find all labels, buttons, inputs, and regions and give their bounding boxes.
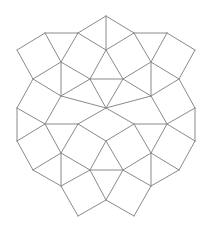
tiling-edge (151, 170, 179, 186)
tiling-edge (106, 16, 134, 33)
tiling-edge (17, 108, 45, 124)
tiling-edges (17, 16, 195, 216)
tiling-edge (45, 96, 61, 124)
tiling-edge (106, 141, 123, 170)
tiling-edge (61, 62, 90, 79)
tiling-edge (90, 141, 106, 170)
tiling-edge (134, 33, 151, 62)
tiling-edge (17, 50, 33, 79)
tiling-edge (151, 33, 167, 62)
tiling-edge (33, 79, 61, 96)
tiling-edge (61, 170, 90, 186)
tiling-edge (45, 124, 61, 153)
tiling-edge (17, 79, 33, 108)
tiling-edge (45, 33, 61, 62)
tiling-edge (78, 200, 106, 216)
tiling-edge (33, 62, 61, 79)
tiling-edge (106, 50, 123, 79)
tiling-edge (151, 62, 179, 79)
tiling-edge (61, 96, 106, 108)
tiling-edge (167, 124, 195, 141)
tiling-edge (61, 124, 78, 153)
tiling-edge (61, 153, 90, 170)
tiling-edge (17, 141, 33, 170)
tiling-edge (151, 96, 167, 124)
tiling-edge (134, 186, 151, 216)
tiling-edge (61, 186, 78, 216)
tiling-edge (17, 124, 45, 141)
tiling-edge (90, 170, 106, 200)
tiling-edge (151, 153, 179, 170)
tiling-edge (90, 79, 106, 108)
tiling-edge (106, 170, 123, 200)
tiling-edge (33, 170, 61, 186)
square-triangle-tiling-diagram (0, 0, 209, 226)
tiling-edge (179, 141, 195, 170)
tiling-edge (123, 170, 151, 186)
tiling-edge (78, 108, 106, 124)
tiling-edge (90, 50, 106, 79)
tiling-edge (106, 200, 134, 216)
tiling-edge (61, 79, 90, 96)
tiling-edge (179, 50, 195, 79)
tiling-edge (179, 79, 195, 108)
tiling-edge (78, 33, 106, 50)
tiling-edge (106, 96, 151, 108)
tiling-edge (33, 153, 61, 170)
tiling-edge (106, 124, 134, 141)
tiling-edge (134, 124, 151, 153)
tiling-edge (167, 108, 195, 124)
tiling-edge (78, 124, 106, 141)
tiling-edge (17, 33, 45, 50)
tiling-edge (106, 108, 134, 124)
tiling-edge (106, 33, 134, 50)
tiling-edge (151, 79, 179, 96)
tiling-edge (151, 124, 167, 153)
tiling-edge (123, 153, 151, 170)
tiling-edge (78, 16, 106, 33)
tiling-edge (123, 62, 151, 79)
tiling-edge (167, 33, 195, 50)
tiling-edge (61, 33, 78, 62)
tiling-edge (123, 79, 151, 96)
